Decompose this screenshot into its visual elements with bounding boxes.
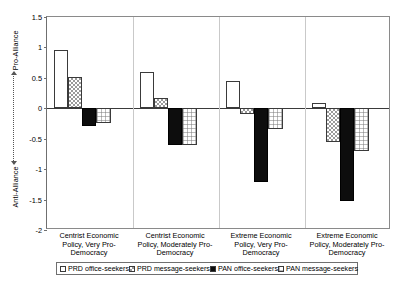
x-axis-group-separator	[219, 17, 220, 228]
legend-swatch-icon	[60, 266, 66, 272]
legend-swatch-icon	[129, 266, 135, 272]
bar-prd-office-seekers-g4	[312, 103, 326, 108]
bar-pan-message-seekers-g4	[354, 108, 368, 151]
y-axis-tick-mark	[44, 47, 47, 48]
x-axis-group-separator	[133, 17, 134, 228]
chart-page: Anti-Alliance Pro-Alliance 1.510.50-0.5-…	[0, 0, 412, 281]
y-axis-title-top: Pro-Alliance	[11, 30, 20, 70]
y-axis-tick-label: -0.5	[29, 134, 42, 143]
y-axis-tick-mark	[44, 108, 47, 109]
bar-pan-message-seekers-g3	[268, 108, 282, 129]
y-axis-tick-label: -1.5	[29, 195, 42, 204]
bar-pan-office-seekers-g4	[340, 108, 354, 201]
legend-swatch-icon	[278, 266, 284, 272]
plot-area-wrapper: 1.510.50-0.5-1-1.5-2	[46, 16, 390, 229]
legend-item-label: PAN message-seekers	[286, 265, 358, 273]
y-axis-tick-label: 1	[38, 43, 42, 52]
category-label-line: Democracy	[49, 249, 129, 258]
legend-item-prd-message-seekers[interactable]: PRD message-seekers	[129, 265, 210, 273]
y-axis-tick-label: -2	[35, 226, 42, 235]
bar-prd-office-seekers-g1	[54, 50, 68, 108]
x-axis-category-label-2: Centrist EconomicPolicy, Moderately Pro-…	[132, 232, 218, 264]
y-axis-title-bottom: Anti-Alliance	[11, 166, 20, 207]
bar-prd-message-seekers-g2	[154, 98, 168, 108]
y-axis-tick-mark	[44, 169, 47, 170]
legend-item-label: PRD office-seekers	[68, 265, 129, 273]
bar-prd-message-seekers-g1	[68, 77, 82, 109]
x-axis-group-separator	[305, 17, 306, 228]
y-axis-tick-label: 1.5	[32, 13, 42, 22]
plot-area: 1.510.50-0.5-1-1.5-2	[46, 16, 390, 229]
legend-item-pan-office-seekers[interactable]: PAN office-seekers	[210, 265, 278, 273]
category-label-line: Democracy	[221, 249, 301, 258]
bar-pan-office-seekers-g2	[168, 108, 182, 145]
x-axis-category-labels: Centrist EconomicPolicy, Very Pro-Democr…	[46, 232, 390, 264]
bar-prd-office-seekers-g3	[226, 81, 240, 108]
legend-item-pan-message-seekers[interactable]: PAN message-seekers	[278, 265, 358, 273]
y-axis-tick-label: 0	[38, 104, 42, 113]
y-axis-tick-mark	[44, 139, 47, 140]
legend-item-label: PAN office-seekers	[218, 265, 278, 273]
x-axis-category-label-3: Extreme EconomicPolicy, Very Pro-Democra…	[218, 232, 304, 264]
category-label-line: Democracy	[135, 249, 215, 258]
y-axis-tick-mark	[44, 200, 47, 201]
x-axis-category-label-4: Extreme EconomicPolicy, Moderately Pro-D…	[304, 232, 390, 264]
y-axis-arrow-icon	[13, 72, 15, 164]
y-axis-tick-mark	[44, 230, 47, 231]
bar-prd-office-seekers-g2	[140, 72, 154, 108]
legend-item-prd-office-seekers[interactable]: PRD office-seekers	[60, 265, 129, 273]
bar-pan-message-seekers-g1	[96, 108, 110, 123]
y-axis-tick-mark	[44, 17, 47, 18]
category-label-line: Democracy	[307, 249, 387, 258]
bar-pan-message-seekers-g2	[182, 108, 196, 145]
legend-item-label: PRD message-seekers	[137, 265, 210, 273]
y-axis-tick-label: -1	[35, 165, 42, 174]
y-axis-title: Anti-Alliance Pro-Alliance	[8, 8, 22, 230]
bar-prd-message-seekers-g3	[240, 108, 254, 114]
legend-swatch-icon	[210, 266, 216, 272]
y-axis-tick-mark	[44, 78, 47, 79]
bar-pan-office-seekers-g1	[82, 108, 96, 126]
bar-prd-message-seekers-g4	[326, 108, 340, 141]
y-axis-tick-label: 0.5	[32, 73, 42, 82]
x-axis-category-label-1: Centrist EconomicPolicy, Very Pro-Democr…	[46, 232, 132, 264]
chart-legend: PRD office-seekersPRD message-seekersPAN…	[56, 262, 358, 275]
bar-pan-office-seekers-g3	[254, 108, 268, 182]
